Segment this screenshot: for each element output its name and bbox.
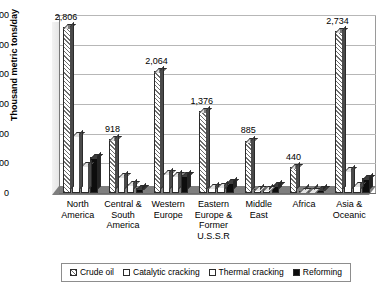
bar-thermal-cracking: [217, 186, 225, 193]
bar-side-face: [160, 66, 164, 190]
x-axis-tick-label-line: South: [100, 210, 145, 221]
data-label: 885: [241, 126, 256, 135]
x-axis-tick-label-line: North: [55, 199, 100, 210]
bar-group: [331, 15, 376, 193]
bar-side-face: [351, 165, 355, 190]
y-axis-tick-label: 0: [0, 189, 9, 198]
x-axis-line: [59, 193, 376, 194]
x-axis-tick-label-line: Western: [146, 199, 191, 210]
y-axis-tick-label: 2,500: [0, 41, 9, 50]
bar-crude-oil: [245, 141, 253, 194]
x-axis-tick-label: EasternEurope &FormerU.S.S.R: [191, 199, 236, 241]
legend-item-crude-oil: Crude oil: [70, 268, 114, 277]
legend-swatch-crude-oil-icon: [70, 269, 77, 276]
x-axis-tick-label: Central &SouthAmerica: [100, 199, 145, 231]
x-axis-tick-label-line: East: [236, 210, 281, 221]
x-axis-tick-label-line: Central &: [100, 199, 145, 210]
x-axis-tick-label-line: U.S.S.R: [191, 231, 236, 242]
x-axis-tick-label-line: Oceanic: [327, 210, 372, 221]
bar-side-face: [70, 22, 74, 190]
bar-side-face: [97, 152, 101, 190]
bar-chart: Thousand metric tons/day 05001,0001,5002…: [0, 0, 391, 299]
bar-thermal-cracking: [172, 175, 180, 193]
legend-label-catalytic-cracking: Catalytic cracking: [133, 268, 200, 277]
data-label: 2,734: [326, 17, 349, 26]
x-axis-tick-label-line: Europe: [146, 210, 191, 221]
bar-crude-oil: [335, 31, 343, 193]
bar-side-face: [115, 134, 119, 190]
x-axis-tick-label: WesternEurope: [146, 199, 191, 220]
x-axis-tick-label-line: Former: [191, 220, 236, 231]
bar-catalytic-cracking: [254, 189, 262, 193]
legend-swatch-reforming-icon: [293, 269, 300, 276]
bar-side-face: [206, 106, 210, 190]
x-axis-tick-label-line: Eastern: [191, 199, 236, 210]
x-axis-tick-label: Africa: [281, 199, 326, 210]
legend-label-crude-oil: Crude oil: [80, 268, 114, 277]
legend-label-reforming: Reforming: [303, 268, 342, 277]
bar-crude-oil: [290, 167, 298, 193]
y-axis-tick-label: 3,000: [0, 11, 9, 20]
bar-group: [285, 15, 330, 193]
bar-side-face: [342, 26, 346, 190]
x-axis-tick-label-line: Asia &: [327, 199, 372, 210]
legend-item-reforming: Reforming: [293, 268, 342, 277]
bar-side-face: [79, 130, 83, 190]
bar-group: [150, 15, 195, 193]
y-axis-line: [59, 15, 60, 193]
x-axis-tick-label-line: Europe &: [191, 210, 236, 221]
bar-crude-oil: [109, 139, 117, 193]
y-axis-tick-label: 1,000: [0, 130, 9, 139]
bar-side-face: [296, 162, 300, 190]
legend-item-thermal-cracking: Thermal cracking: [209, 268, 284, 277]
x-axis-tick-label: MiddleEast: [236, 199, 281, 220]
x-axis-tick-label-line: America: [100, 220, 145, 231]
bar-reforming: [136, 188, 144, 193]
x-axis-tick-label-line: Middle: [236, 199, 281, 210]
bar-catalytic-cracking: [299, 191, 307, 193]
y-axis-tick-label: 1,500: [0, 100, 9, 109]
bar-side-face: [88, 160, 92, 190]
x-axis-tick-label-line: Africa: [281, 199, 326, 210]
y-axis-tick-label: 2,000: [0, 70, 9, 79]
bar-thermal-cracking: [353, 185, 361, 193]
y-axis-tick-label: 500: [0, 159, 9, 168]
chart-left-wall: [52, 22, 59, 194]
legend-item-catalytic-cracking: Catalytic cracking: [123, 268, 200, 277]
bar-group: [59, 15, 104, 193]
data-label: 440: [286, 153, 301, 162]
y-axis-title: Thousand metric tons/day: [9, 0, 19, 135]
plot-area: [59, 15, 376, 193]
bar-reforming: [181, 175, 189, 193]
bar-side-face: [251, 136, 255, 191]
bar-catalytic-cracking: [163, 173, 171, 193]
data-label: 918: [105, 125, 120, 134]
data-label: 2,064: [145, 57, 168, 66]
legend-swatch-catalytic-cracking-icon: [123, 269, 130, 276]
legend-swatch-thermal-cracking-icon: [209, 269, 216, 276]
bar-group: [240, 15, 285, 193]
bar-group: [104, 15, 149, 193]
bar-thermal-cracking: [263, 189, 271, 193]
bar-crude-oil: [154, 71, 162, 193]
bar-crude-oil: [199, 111, 207, 193]
bar-crude-oil: [63, 27, 71, 193]
x-axis-tick-label-line: America: [55, 210, 100, 221]
legend-label-thermal-cracking: Thermal cracking: [219, 268, 284, 277]
bar-catalytic-cracking: [208, 187, 216, 193]
chart-legend: Crude oil Catalytic cracking Thermal cra…: [61, 263, 351, 282]
x-axis-tick-label: Asia &Oceanic: [327, 199, 372, 220]
data-label: 2,806: [55, 13, 78, 22]
x-axis-tick-label: NorthAmerica: [55, 199, 100, 220]
bar-thermal-cracking: [308, 191, 316, 193]
